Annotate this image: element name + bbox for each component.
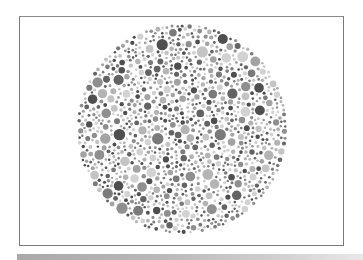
plate-dot [157,159,160,162]
plate-dot [78,136,81,139]
plate-dot [158,202,161,205]
plate-dot [168,76,171,79]
plate-dot [123,145,125,147]
plate-dot [154,66,161,73]
plate-dot [241,82,250,91]
plate-dot [169,130,175,136]
plate-dot [197,182,200,185]
plate-dot [245,162,249,166]
plate-dot [252,79,255,82]
plate-dot [220,156,222,158]
plate-dot [211,111,213,113]
plate-dot [158,162,161,165]
plate-dot [143,119,147,123]
plate-dot [165,32,168,35]
plate-dot [210,64,213,67]
plate-dot [273,129,276,132]
plate-dot [266,83,268,85]
plate-dot [111,168,116,173]
plate-dot [186,106,189,109]
plate-dot [175,143,177,145]
plate-dot [233,110,236,113]
plate-dot [130,72,133,75]
plate-dot [231,210,233,212]
plate-dot [154,146,157,149]
plate-dot [144,64,147,67]
plate-dot [140,123,143,126]
plate-dot [194,77,196,79]
plate-dot [117,157,120,160]
plate-dot [160,97,167,104]
plate-dot [238,155,241,158]
plate-dot [282,112,286,116]
plate-dot [114,165,117,168]
plate-dot [166,148,169,151]
plate-dot [174,150,177,153]
plate-dot [100,163,103,166]
plate-dot [185,194,188,197]
plate-dot [215,50,218,53]
plate-dot [234,127,237,130]
plate-dot [149,162,152,165]
plate-dot [198,223,202,227]
plate-dot [140,116,142,118]
plate-dot [222,53,232,63]
plate-dot [111,181,114,184]
plate-dot [263,92,266,95]
plate-dot [146,178,152,184]
plate-dot [173,197,176,200]
plate-dot [84,130,87,133]
plate-dot [225,186,228,189]
plate-dot [203,61,205,63]
plate-dot [206,82,208,84]
plate-dot [91,91,93,93]
plate-dot [225,157,229,161]
plate-dot [197,81,199,83]
plate-dot [94,150,104,160]
plate-dot [107,120,110,123]
plate-dot [145,139,151,145]
plate-dot [172,39,175,42]
plate-dot [182,44,185,47]
plate-dot [257,78,260,81]
plate-dot [105,166,108,169]
plate-dot [175,161,178,164]
plate-dot [163,156,169,162]
plate-dot [135,44,137,46]
plate-dot [147,168,157,178]
plate-dot [170,122,176,128]
plate-dot [255,141,258,144]
plate-dot [255,126,261,132]
plate-dot [192,144,198,150]
plate-dot [210,222,213,225]
plate-dot [133,165,141,173]
plate-dot [253,188,256,191]
plate-dot [176,56,180,60]
plate-dot [186,33,190,37]
plate-dot [196,35,199,38]
plate-dot [254,119,256,121]
plate-dot [150,114,153,117]
plate-dot [175,204,178,207]
plate-dot [236,210,239,213]
plate-dot [151,129,154,132]
plate-dot [228,211,230,213]
plate-dot [181,25,184,28]
plate-dot [187,92,190,95]
plate-dot [132,128,135,131]
plate-dot [166,152,169,155]
plate-dot [103,103,107,107]
plate-dot [251,131,254,134]
plate-dot [230,119,234,123]
plate-dot [114,51,117,54]
plate-dot [177,223,180,226]
plate-dot [101,169,104,172]
plate-dot [155,97,158,100]
plate-dot [105,158,107,160]
plate-dot [118,54,122,58]
plate-dot [186,116,189,119]
plate-dot [86,149,89,152]
plate-dot [138,217,140,219]
plate-dot [230,133,234,137]
plate-dot [114,192,117,195]
